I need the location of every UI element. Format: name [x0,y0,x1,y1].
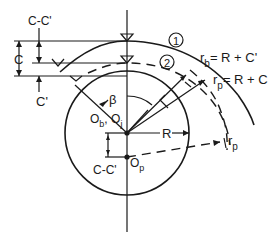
label-beta: β [109,92,116,107]
label-ob-oj: Ob, Oj [90,112,122,129]
c-arrow-top [16,41,22,47]
op-dashed-line [127,142,220,157]
r-arrow [183,130,189,136]
arc-1-continuation [238,95,254,125]
label-c-minus-cprime-top: C-C' [28,14,52,28]
arc-2-number: 2 [164,57,170,69]
cc-arrow-bottom [36,57,42,63]
rp-label: rp= R + C [213,72,268,91]
beta-arrow [99,101,106,107]
rb-label: rb= R + C' [200,50,257,69]
label-c-prime: C' [36,94,48,109]
arc-1-number: 1 [173,35,179,47]
label-c-minus-cprime-bottom: C-C' [93,163,117,177]
rp-side-tick [224,138,226,148]
cprime-arrow [36,76,42,82]
v-mark-2 [70,76,82,81]
op-rp-arrow [213,140,220,146]
cc-bottom-arrow-top [106,135,110,140]
bracket-2 [185,82,191,87]
label-c: C [14,52,23,67]
radial-line-rb [127,75,186,133]
label-op: Op [130,156,144,173]
angle-arc [127,96,152,105]
label-rp-side: rp [228,133,238,152]
cc-arrow-top [36,41,42,47]
c-arrow-bottom [16,70,22,76]
cc-bottom-arrow-bottom [106,150,110,155]
bearing-geometry-diagram: 1 2 rb= R + C' rp= R + C C-C' C C' β Ob,… [0,0,277,236]
label-r: R [162,126,171,141]
